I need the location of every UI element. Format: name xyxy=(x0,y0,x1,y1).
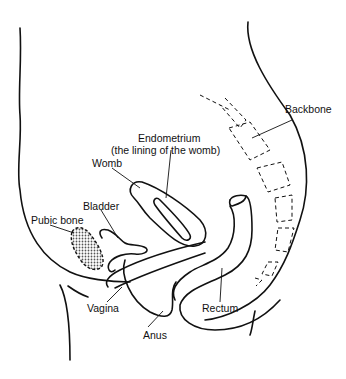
vagina-outline xyxy=(107,242,206,287)
endometrium-outline xyxy=(154,198,190,240)
leader-anus xyxy=(148,311,163,327)
vertebra-4 xyxy=(275,195,292,222)
anal-canal-outline xyxy=(124,260,176,316)
back-body-outline xyxy=(205,22,307,320)
leader-rectum xyxy=(220,268,222,302)
diagram-drawing xyxy=(0,0,346,379)
label-backbone: Backbone xyxy=(285,103,332,115)
label-endometrium-line2: (the lining of the womb) xyxy=(111,144,220,156)
label-endometrium-line1: Endometrium xyxy=(138,132,200,144)
groin-line xyxy=(68,286,88,297)
pubic-bone xyxy=(71,228,103,270)
womb-outline xyxy=(130,182,205,246)
label-bladder: Bladder xyxy=(83,200,119,212)
vertebra-1 xyxy=(220,98,246,128)
vertebra-5 xyxy=(275,228,294,252)
anatomy-diagram: Backbone Endometrium (the lining of the … xyxy=(0,0,346,379)
label-anus: Anus xyxy=(143,329,167,341)
label-pubic-bone: Pubic bone xyxy=(31,214,84,226)
leader-womb xyxy=(112,168,140,188)
label-rectum: Rectum xyxy=(202,302,238,314)
label-womb: Womb xyxy=(92,157,122,169)
spine-upper-dash xyxy=(200,95,230,110)
leader-bladder xyxy=(101,210,118,238)
leader-vagina xyxy=(107,287,122,302)
leader-pubic-bone xyxy=(50,225,74,233)
vertebra-3 xyxy=(257,162,290,192)
leader-endometrium xyxy=(166,150,171,198)
vertebra-7 xyxy=(255,278,262,286)
label-vagina: Vagina xyxy=(87,302,119,314)
thigh-line xyxy=(60,285,70,360)
leader-backbone xyxy=(252,120,292,138)
vertebra-2 xyxy=(229,122,270,160)
label-endometrium: Endometrium xyxy=(138,132,200,144)
vertebra-6 xyxy=(262,262,278,276)
